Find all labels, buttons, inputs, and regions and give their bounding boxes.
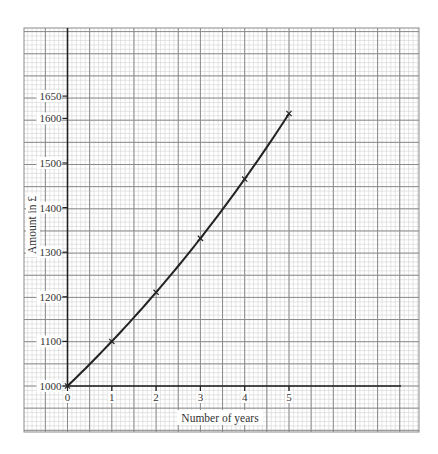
y-tick-label: 1200 [40, 291, 63, 303]
x-tick-label: 1 [109, 391, 115, 403]
y-tick-label: 1100 [40, 335, 62, 347]
x-axis-title: Number of years [181, 412, 259, 425]
x-tick-label: 2 [153, 391, 159, 403]
y-tick-label: 1400 [40, 202, 63, 214]
y-tick-label: 1000 [40, 380, 63, 392]
y-tick-label: 1650 [40, 90, 63, 102]
y-tick-label: 1500 [40, 157, 63, 169]
y-axis-title: Amount in £ [26, 196, 38, 254]
x-tick-label: 0 [65, 391, 71, 403]
x-axis-title-group: Number of years [177, 410, 263, 425]
y-tick-label: 1600 [40, 112, 63, 124]
x-tick-label: 4 [242, 391, 248, 403]
y-axis-title-group: Amount in £ [26, 193, 40, 257]
compound-growth-chart: 012345 10001100120013001400150016001650 … [0, 0, 438, 454]
x-tick-label: 5 [286, 391, 292, 403]
y-tick-label: 1300 [40, 246, 63, 258]
x-tick-label: 3 [198, 391, 204, 403]
